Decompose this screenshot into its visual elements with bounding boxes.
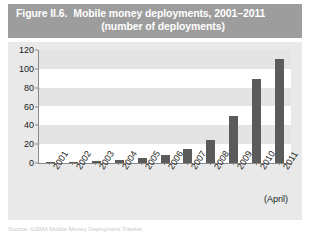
y-tick-label: 80 bbox=[24, 83, 34, 93]
y-tick-label: 0 bbox=[29, 158, 34, 168]
x-tick-mark bbox=[233, 163, 234, 165]
bar bbox=[229, 116, 238, 163]
figure-subtitle: (number of deployments) bbox=[16, 20, 296, 33]
x-tick-mark bbox=[141, 163, 142, 165]
y-tick-label: 20 bbox=[24, 139, 34, 149]
x-axis-note: (April) bbox=[264, 194, 288, 204]
chart-panel: 120 100 80 60 40 20 0 (April) 2001200220… bbox=[8, 42, 302, 220]
x-axis: (April) 20012002200320042005200620072008… bbox=[38, 164, 290, 208]
x-tick-mark bbox=[118, 163, 119, 165]
bars-layer bbox=[39, 50, 291, 163]
x-tick-mark bbox=[210, 163, 211, 165]
x-tick-mark bbox=[187, 163, 188, 165]
plot-area bbox=[38, 50, 291, 164]
x-tick-mark bbox=[256, 163, 257, 165]
bar bbox=[206, 140, 215, 163]
bar bbox=[252, 79, 261, 163]
figure-container: Figure II.6.Mobile money deployments, 20… bbox=[0, 0, 310, 238]
x-tick-mark bbox=[95, 163, 96, 165]
y-tick-label: 40 bbox=[24, 120, 34, 130]
figure-number: Figure II.6. bbox=[16, 7, 67, 19]
y-tick-label: 100 bbox=[19, 64, 34, 74]
y-tick-label: 60 bbox=[24, 102, 34, 112]
y-axis: 120 100 80 60 40 20 0 bbox=[8, 50, 38, 163]
page-title: Mobile money deployments, 2001–2011 bbox=[73, 7, 265, 19]
bar bbox=[275, 59, 284, 163]
plot-wrap bbox=[38, 50, 290, 163]
x-tick-mark bbox=[279, 163, 280, 165]
source-note: Source: GSMA Mobile Money Deployment Tra… bbox=[8, 226, 302, 232]
figure-title-line: Figure II.6.Mobile money deployments, 20… bbox=[16, 7, 296, 20]
figure-title-band: Figure II.6.Mobile money deployments, 20… bbox=[8, 4, 302, 38]
x-tick-mark bbox=[164, 163, 165, 165]
y-tick-label: 120 bbox=[19, 45, 34, 55]
